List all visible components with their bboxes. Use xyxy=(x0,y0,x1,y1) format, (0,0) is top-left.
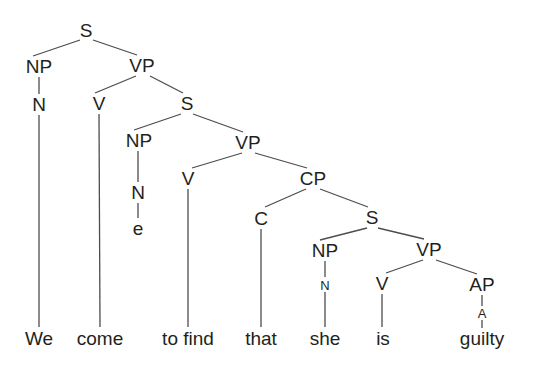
tree-node-ap-1: AP xyxy=(469,275,494,294)
tree-node-vp-3: VP xyxy=(416,240,441,259)
tree-node-v-3: V xyxy=(376,274,389,293)
tree-terminal-leaf-e: e xyxy=(133,219,144,238)
tree-edge xyxy=(150,76,183,93)
tree-node-cp-1: CP xyxy=(300,169,326,188)
tree-edge xyxy=(99,114,100,327)
tree-edge xyxy=(255,153,307,168)
tree-edge xyxy=(436,260,477,274)
tree-terminal-leaf-that: that xyxy=(245,329,277,348)
tree-edge xyxy=(93,40,137,55)
tree-node-s-2: S xyxy=(181,94,194,113)
tree-node-c-1: C xyxy=(254,209,268,228)
tree-edges-layer xyxy=(0,0,534,371)
tree-node-np-1: NP xyxy=(26,57,52,76)
tree-node-s-3: S xyxy=(366,208,379,227)
tree-terminal-leaf-guilty: guilty xyxy=(460,329,504,348)
tree-edge xyxy=(378,228,424,239)
tree-edge xyxy=(320,189,368,207)
tree-node-n-1: N xyxy=(32,95,46,114)
tree-node-s-root: S xyxy=(80,21,93,40)
tree-terminal-leaf-come: come xyxy=(77,329,123,348)
tree-node-v-2: V xyxy=(182,169,195,188)
tree-edge xyxy=(33,40,80,56)
tree-node-a-1: A xyxy=(478,307,487,320)
tree-edge xyxy=(134,114,181,130)
syntax-tree-diagram: SNPVPNVSNPVPNVCPCSNPVPNVAPAWecomeeto fin… xyxy=(0,0,534,371)
tree-terminal-leaf-is: is xyxy=(376,329,390,348)
tree-edge xyxy=(193,114,243,132)
tree-node-n-3: N xyxy=(320,279,329,292)
tree-terminal-leaf-tofind: to find xyxy=(162,329,214,348)
tree-edge xyxy=(265,189,306,207)
tree-node-vp-1: VP xyxy=(129,56,154,75)
tree-edge xyxy=(320,228,367,240)
tree-edge xyxy=(192,153,242,168)
tree-node-np-3: NP xyxy=(312,241,338,260)
tree-node-vp-2: VP xyxy=(235,133,260,152)
tree-edge xyxy=(95,76,136,93)
tree-edge xyxy=(386,260,423,273)
tree-node-v-1: V xyxy=(93,94,106,113)
tree-terminal-leaf-we: We xyxy=(25,329,53,348)
tree-node-np-2: NP xyxy=(126,131,152,150)
tree-terminal-leaf-she: she xyxy=(310,329,341,348)
tree-node-n-2: N xyxy=(131,183,145,202)
